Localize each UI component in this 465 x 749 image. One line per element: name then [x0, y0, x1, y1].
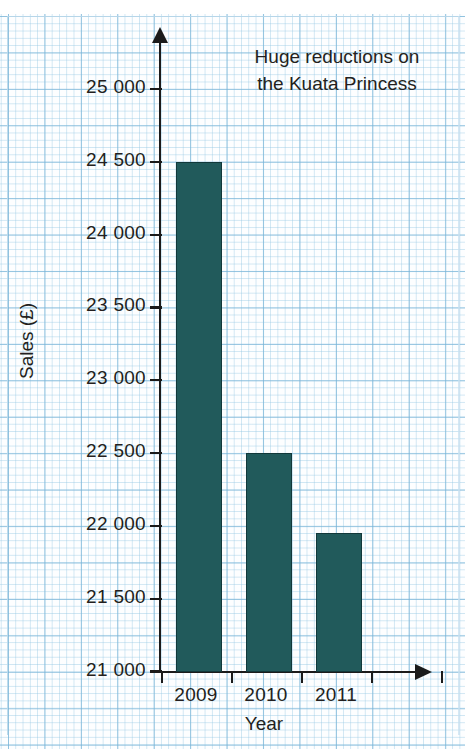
- page-border-right-edge: [458, 16, 460, 735]
- y-axis-tick: [150, 379, 162, 381]
- annotation-line-1: Huge reductions on: [228, 43, 446, 70]
- y-axis-tick: [150, 525, 162, 527]
- x-axis-tick: [371, 671, 373, 683]
- chart-annotation: Huge reductions on the Kuata Princess: [228, 43, 446, 97]
- cropped-top-text: [0, 0, 465, 3]
- y-axis-arrowhead: [152, 27, 168, 43]
- y-axis-tick-label: 24 500: [46, 149, 146, 171]
- y-axis-tick-label: 22 500: [46, 440, 146, 462]
- y-axis-tick: [150, 452, 162, 454]
- bar-chart-figure: 21 00021 50022 00022 50023 00023 50024 0…: [0, 0, 465, 749]
- x-axis-arrowhead: [415, 664, 432, 680]
- y-axis-tick: [150, 161, 162, 163]
- y-axis-tick-label: 22 000: [46, 513, 146, 535]
- x-axis-tick-origin: [161, 671, 163, 683]
- x-axis-tick-label-2010: 2010: [226, 684, 306, 706]
- annotation-line-2: the Kuata Princess: [228, 70, 446, 97]
- y-axis-title: Sales (£): [16, 281, 38, 401]
- y-axis-tick-label: 21 500: [46, 586, 146, 608]
- bar-2010: [246, 453, 292, 671]
- y-axis-tick-label: 25 000: [46, 76, 146, 98]
- y-axis-tick-label: 24 000: [46, 222, 146, 244]
- y-axis-tick-label: 21 000: [46, 659, 146, 681]
- bar-2011: [316, 533, 362, 671]
- y-axis-tick: [150, 598, 162, 600]
- x-axis-tick-label-2009: 2009: [156, 684, 236, 706]
- x-axis-tick: [301, 671, 303, 683]
- y-axis-line: [159, 37, 161, 673]
- x-axis-title: Year: [199, 713, 329, 735]
- y-axis-tick: [150, 306, 162, 308]
- bar-2009: [176, 162, 222, 672]
- y-axis-tick: [150, 234, 162, 236]
- y-axis-tick-label: 23 500: [46, 294, 146, 316]
- x-axis-tick-extra: [441, 671, 443, 683]
- x-axis-tick-label-2011: 2011: [296, 684, 376, 706]
- y-axis-tick-label: 23 000: [46, 367, 146, 389]
- x-axis-tick: [231, 671, 233, 683]
- y-axis-tick: [150, 88, 162, 90]
